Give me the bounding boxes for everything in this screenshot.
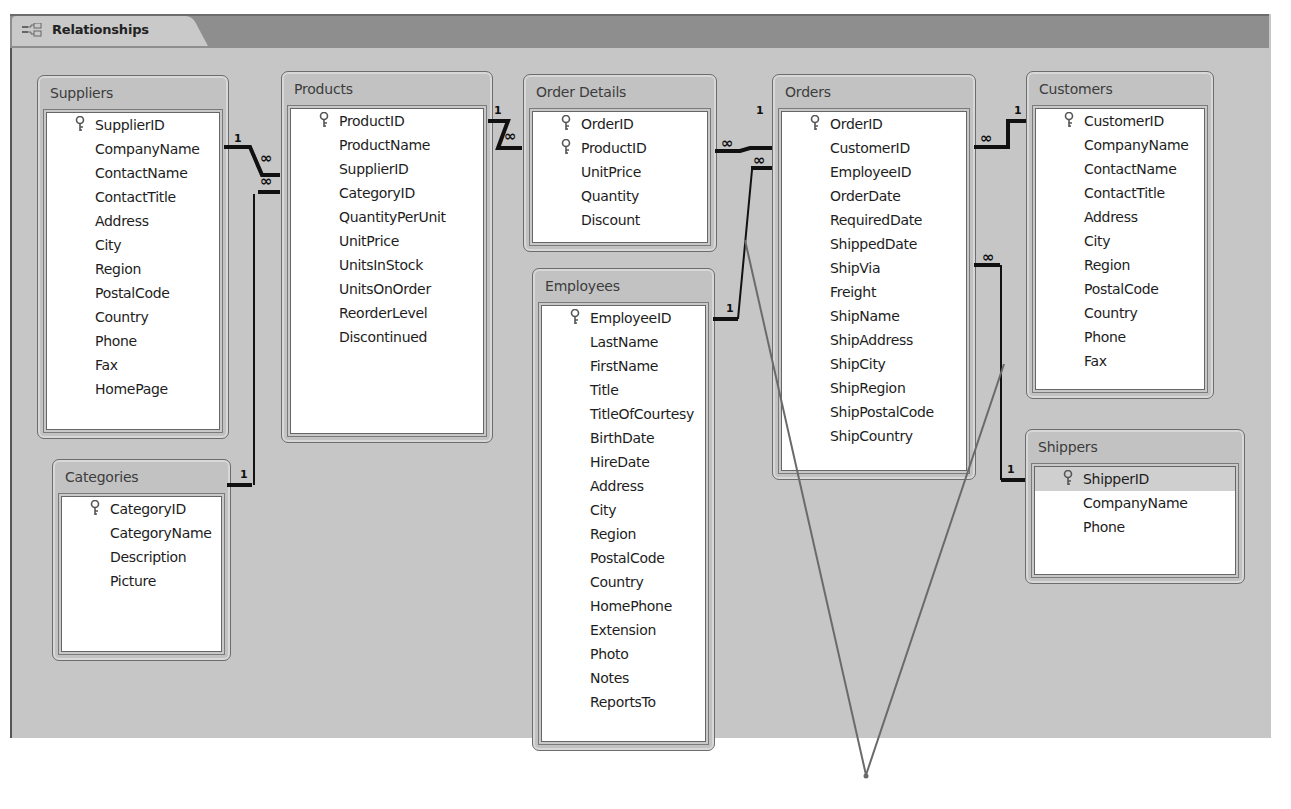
- field-item[interactable]: ContactTitle: [1036, 181, 1204, 205]
- field-item[interactable]: ShipRegion: [782, 376, 966, 400]
- field-item[interactable]: SupplierID: [47, 113, 219, 137]
- field-item[interactable]: CompanyName: [47, 137, 219, 161]
- field-item[interactable]: Region: [47, 257, 219, 281]
- field-item[interactable]: HomePhone: [542, 594, 705, 618]
- field-item[interactable]: ProductID: [533, 136, 707, 160]
- field-item[interactable]: ReportsTo: [542, 690, 705, 714]
- field-item[interactable]: Phone: [1036, 325, 1204, 349]
- field-item[interactable]: City: [47, 233, 219, 257]
- field-item[interactable]: ShippedDate: [782, 232, 966, 256]
- field-item[interactable]: ContactTitle: [47, 185, 219, 209]
- cardinality-many: ∞: [753, 155, 763, 165]
- field-list[interactable]: EmployeeID LastName FirstName Title Titl…: [541, 305, 706, 742]
- field-item[interactable]: FirstName: [542, 354, 705, 378]
- field-item[interactable]: Fax: [47, 353, 219, 377]
- cardinality-many: ∞: [260, 176, 270, 186]
- field-item[interactable]: Address: [47, 209, 219, 233]
- field-item[interactable]: ShipVia: [782, 256, 966, 280]
- field-item[interactable]: OrderID: [533, 112, 707, 136]
- field-item[interactable]: QuantityPerUnit: [291, 205, 483, 229]
- field-item[interactable]: ContactName: [1036, 157, 1204, 181]
- field-item[interactable]: Country: [47, 305, 219, 329]
- field-item[interactable]: ProductName: [291, 133, 483, 157]
- field-item[interactable]: RequiredDate: [782, 208, 966, 232]
- field-item[interactable]: ShipAddress: [782, 328, 966, 352]
- field-item[interactable]: SupplierID: [291, 157, 483, 181]
- field-item[interactable]: Address: [1036, 205, 1204, 229]
- field-item[interactable]: TitleOfCourtesy: [542, 402, 705, 426]
- field-item[interactable]: Notes: [542, 666, 705, 690]
- field-item[interactable]: ShipCity: [782, 352, 966, 376]
- table-employees[interactable]: Employees EmployeeID LastName FirstName …: [532, 268, 715, 751]
- field-item[interactable]: CustomerID: [1036, 109, 1204, 133]
- field-item[interactable]: OrderDate: [782, 184, 966, 208]
- field-item[interactable]: CustomerID: [782, 136, 966, 160]
- field-item[interactable]: Region: [1036, 253, 1204, 277]
- field-item[interactable]: CompanyName: [1035, 491, 1235, 515]
- field-list[interactable]: CategoryID CategoryName Description Pict…: [61, 496, 222, 652]
- field-item[interactable]: PostalCode: [47, 281, 219, 305]
- cardinality-many: ∞: [980, 133, 990, 143]
- table-categories[interactable]: Categories CategoryID CategoryName Descr…: [52, 459, 231, 661]
- field-item[interactable]: CompanyName: [1036, 133, 1204, 157]
- field-item[interactable]: CategoryName: [62, 521, 221, 545]
- cardinality-many: ∞: [721, 138, 731, 148]
- field-item[interactable]: BirthDate: [542, 426, 705, 450]
- field-item[interactable]: UnitPrice: [291, 229, 483, 253]
- field-item[interactable]: Freight: [782, 280, 966, 304]
- field-item[interactable]: UnitsInStock: [291, 253, 483, 277]
- field-item[interactable]: Discount: [533, 208, 707, 232]
- field-item[interactable]: ShipName: [782, 304, 966, 328]
- field-item[interactable]: Fax: [1036, 349, 1204, 373]
- field-item[interactable]: Country: [1036, 301, 1204, 325]
- field-item[interactable]: Phone: [47, 329, 219, 353]
- field-item[interactable]: Quantity: [533, 184, 707, 208]
- field-item[interactable]: Description: [62, 545, 221, 569]
- field-item[interactable]: ContactName: [47, 161, 219, 185]
- field-item[interactable]: Discontinued: [291, 325, 483, 349]
- table-order-details[interactable]: Order Details OrderID ProductID UnitPric…: [523, 74, 717, 252]
- field-item[interactable]: ProductID: [291, 109, 483, 133]
- table-suppliers[interactable]: Suppliers SupplierID CompanyName Contact…: [37, 75, 229, 439]
- field-item[interactable]: Country: [542, 570, 705, 594]
- table-shippers[interactable]: Shippers ShipperID CompanyName Phone: [1025, 429, 1245, 584]
- field-item[interactable]: OrderID: [782, 112, 966, 136]
- field-list[interactable]: ProductID ProductName SupplierID Categor…: [290, 108, 484, 434]
- table-title: Suppliers: [50, 85, 113, 101]
- field-item[interactable]: City: [1036, 229, 1204, 253]
- tab-relationships[interactable]: Relationships: [12, 16, 182, 46]
- field-item[interactable]: LastName: [542, 330, 705, 354]
- field-item[interactable]: HomePage: [47, 377, 219, 401]
- field-item[interactable]: CategoryID: [62, 497, 221, 521]
- field-item[interactable]: UnitsOnOrder: [291, 277, 483, 301]
- field-item[interactable]: ShipCountry: [782, 424, 966, 448]
- field-item[interactable]: Address: [542, 474, 705, 498]
- field-item[interactable]: Picture: [62, 569, 221, 593]
- field-item-selected[interactable]: ShipperID: [1035, 467, 1235, 491]
- field-item[interactable]: ReorderLevel: [291, 301, 483, 325]
- field-item[interactable]: ShipPostalCode: [782, 400, 966, 424]
- field-item[interactable]: EmployeeID: [542, 306, 705, 330]
- table-customers[interactable]: Customers CustomerID CompanyName Contact…: [1026, 71, 1214, 399]
- field-item[interactable]: Extension: [542, 618, 705, 642]
- field-item[interactable]: UnitPrice: [533, 160, 707, 184]
- primary-key-icon: [318, 112, 330, 128]
- field-item[interactable]: Region: [542, 522, 705, 546]
- field-list[interactable]: SupplierID CompanyName ContactName Conta…: [46, 112, 220, 430]
- field-list[interactable]: OrderID ProductID UnitPrice Quantity Dis…: [532, 111, 708, 243]
- field-list[interactable]: ShipperID CompanyName Phone: [1034, 466, 1236, 575]
- field-list[interactable]: CustomerID CompanyName ContactName Conta…: [1035, 108, 1205, 390]
- table-products[interactable]: Products ProductID ProductName SupplierI…: [281, 71, 493, 443]
- field-list[interactable]: OrderID CustomerID EmployeeID OrderDate …: [781, 111, 967, 471]
- field-item[interactable]: EmployeeID: [782, 160, 966, 184]
- primary-key-icon: [569, 309, 581, 325]
- field-item[interactable]: PostalCode: [542, 546, 705, 570]
- table-orders[interactable]: Orders OrderID CustomerID EmployeeID Ord…: [772, 74, 976, 480]
- field-item[interactable]: Photo: [542, 642, 705, 666]
- field-item[interactable]: Phone: [1035, 515, 1235, 539]
- field-item[interactable]: PostalCode: [1036, 277, 1204, 301]
- field-item[interactable]: City: [542, 498, 705, 522]
- field-item[interactable]: HireDate: [542, 450, 705, 474]
- field-item[interactable]: CategoryID: [291, 181, 483, 205]
- field-item[interactable]: Title: [542, 378, 705, 402]
